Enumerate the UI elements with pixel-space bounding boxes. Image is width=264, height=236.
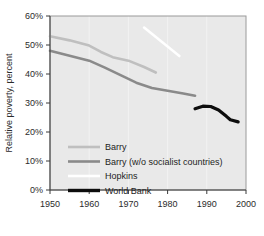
x-tick-label: 1980 bbox=[158, 199, 178, 209]
x-tick-label: 1950 bbox=[40, 199, 60, 209]
x-tick-label: 2000 bbox=[236, 199, 256, 209]
legend-label: Hopkins bbox=[105, 171, 138, 181]
chart-canvas: 0%10%20%30%40%50%60% 1950196019701980199… bbox=[0, 0, 264, 236]
y-tick-label: 20% bbox=[25, 127, 43, 137]
poverty-line-chart: 0%10%20%30%40%50%60% 1950196019701980199… bbox=[0, 0, 264, 236]
y-tick-label: 0% bbox=[30, 185, 43, 195]
y-tick-label: 30% bbox=[25, 98, 43, 108]
y-axis-title: Relative poverty, percent bbox=[4, 53, 14, 152]
y-tick-label: 40% bbox=[25, 69, 43, 79]
x-tick-label: 1970 bbox=[118, 199, 138, 209]
y-tick-label: 50% bbox=[25, 40, 43, 50]
legend-label: Barry (w/o socialist countries) bbox=[105, 157, 223, 167]
y-tick-label: 60% bbox=[25, 11, 43, 21]
x-tick-label: 1960 bbox=[79, 199, 99, 209]
legend-label: World Bank bbox=[105, 186, 152, 196]
x-tick-label: 1990 bbox=[197, 199, 217, 209]
y-axis: 0%10%20%30%40%50%60% bbox=[25, 11, 50, 195]
legend-label: Barry bbox=[105, 142, 127, 152]
y-tick-label: 10% bbox=[25, 156, 43, 166]
